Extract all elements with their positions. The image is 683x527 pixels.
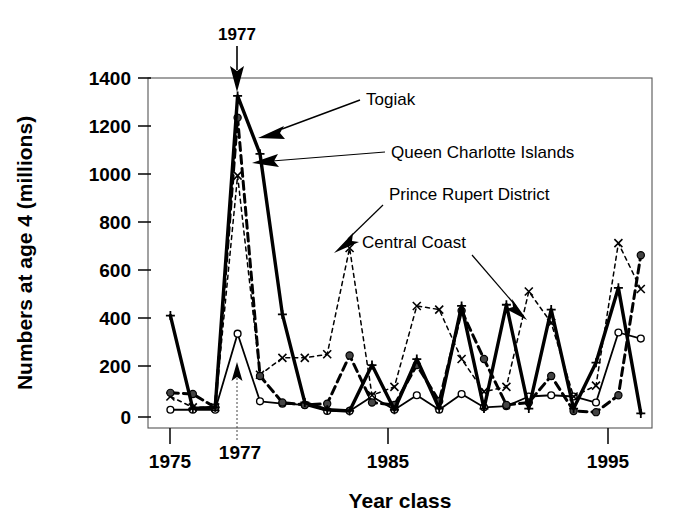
- x-tick-1975: 1975: [149, 451, 192, 472]
- annotation-label-prince-rupert: Prince Rupert District: [389, 185, 550, 204]
- y-axis-title: Numbers at age 4 (millions): [13, 116, 36, 390]
- y-tick-1000: 1000: [89, 164, 131, 185]
- x-tick-1985: 1985: [367, 451, 410, 472]
- y-tick-1400: 1400: [89, 68, 131, 89]
- y-tick-400: 400: [99, 308, 131, 329]
- y-axis-tick-labels: 1400 1200 1000 800 600 400 200 0: [89, 68, 131, 428]
- x-axis-tick-labels: 1975 1985 1995 1977: [149, 442, 630, 472]
- plot-frame: [148, 78, 652, 428]
- line-chart: 1400 1200 1000 800 600 400 200 0 Numbers…: [0, 0, 683, 527]
- x-tick-1977-event: 1977: [219, 442, 261, 463]
- x-axis-title: Year class: [349, 489, 452, 512]
- y-tick-1200: 1200: [89, 116, 131, 137]
- x-tick-1995: 1995: [587, 451, 630, 472]
- annotation-label-togiak: Togiak: [366, 90, 416, 109]
- y-tick-200: 200: [99, 356, 131, 377]
- annotation-label-queen-charlotte: Queen Charlotte Islands: [391, 143, 574, 162]
- y-tick-0: 0: [120, 407, 131, 428]
- event-label-1977: 1977: [218, 25, 256, 44]
- annotation-label-central-coast: Central Coast: [362, 233, 466, 252]
- figure-container: 1400 1200 1000 800 600 400 200 0 Numbers…: [0, 0, 683, 527]
- y-tick-600: 600: [99, 260, 131, 281]
- y-tick-800: 800: [99, 212, 131, 233]
